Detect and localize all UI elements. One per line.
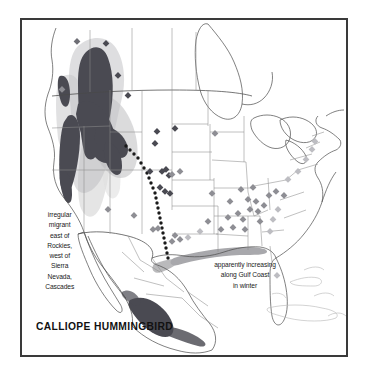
species-title: CALLIOPE HUMMINGBIRD <box>36 320 173 332</box>
range-map-figure: irregular migrant east of Rockies, west … <box>0 0 368 376</box>
map-frame: irregular migrant east of Rockies, west … <box>20 18 348 357</box>
west-migration-note: irregular migrant east of Rockies, west … <box>28 210 91 292</box>
map-graphic <box>22 20 346 355</box>
gulf-coast-note: apparently increasing along Gulf Coast i… <box>194 260 296 291</box>
map-canvas <box>22 20 346 355</box>
